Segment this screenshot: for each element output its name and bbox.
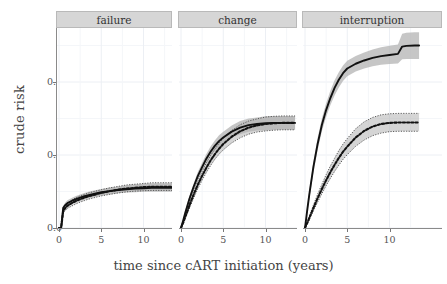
panel-failure [57, 28, 172, 228]
ci-band-dotted [305, 113, 419, 228]
curve-solid [59, 188, 172, 228]
x-tick-p2-2: 10 [380, 234, 400, 245]
panel-strip-change: change [178, 11, 297, 28]
panel-strip-interruption: interruption [302, 11, 442, 28]
y-axis-line [56, 28, 57, 228]
x-tick-p1-1: 5 [213, 234, 233, 245]
panel-strip-failure: failure [56, 11, 172, 28]
x-tick-p2-1: 5 [337, 234, 357, 245]
x-tick-p2-0: 0 [295, 234, 315, 245]
panel-interruption [303, 28, 442, 228]
x-tick-p0-0: 0 [49, 234, 69, 245]
x-axis-line-0 [57, 228, 172, 229]
x-axis-line-2 [303, 228, 442, 229]
x-tick-p0-2: 10 [134, 234, 154, 245]
x-axis-label: time since cART initiation (years) [0, 258, 447, 273]
x-axis-line-1 [179, 228, 297, 229]
x-tick-p0-1: 5 [91, 234, 111, 245]
chart-figure: crude risk time since cART initiation (y… [0, 0, 447, 284]
x-tick-p1-2: 10 [256, 234, 276, 245]
x-tick-p1-0: 0 [171, 234, 191, 245]
panel-change [179, 28, 297, 228]
